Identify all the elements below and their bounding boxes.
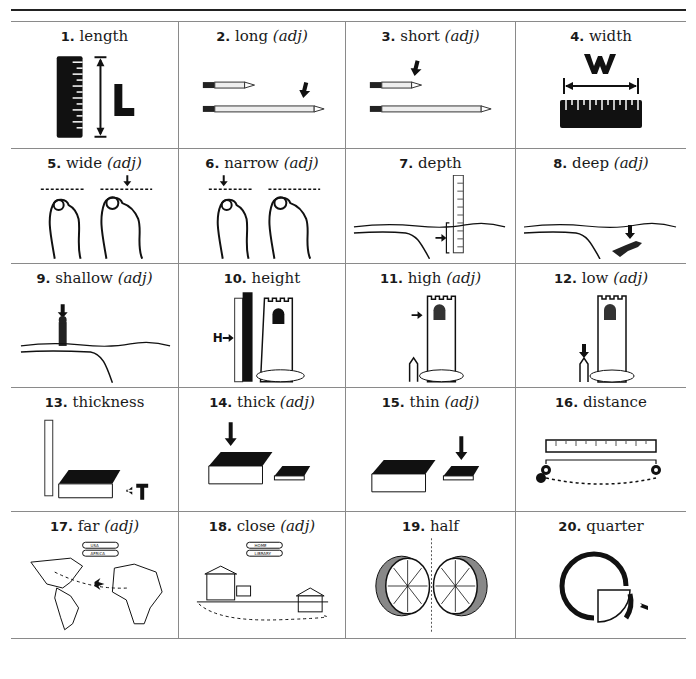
narrow-foot-icon [179, 175, 345, 259]
item-width: 4. width [516, 22, 686, 148]
thin-book-icon [346, 414, 515, 507]
item-label: 7. depth [346, 154, 515, 173]
tower-low-person-icon [516, 290, 686, 383]
item-thin: 15. thin (adj) [346, 388, 516, 511]
circle-quarter-icon [516, 538, 686, 634]
thick-book-icon [179, 414, 345, 507]
item-narrow: 6. narrow (adj) [179, 149, 346, 263]
svg-text:AFRICA: AFRICA [91, 551, 106, 556]
item-depth: 7. depth [346, 149, 516, 263]
item-label: 1. length [11, 27, 178, 46]
item-label: 20. quarter [516, 517, 686, 536]
item-deep: 8. deep (adj) [516, 149, 686, 263]
item-label: 6. narrow (adj) [179, 154, 345, 173]
item-shallow: 9. shallow (adj) [11, 264, 179, 387]
orange-halves-icon [346, 538, 515, 634]
item-label: 9. shallow (adj) [11, 269, 178, 288]
short-pencil-icon [346, 48, 515, 144]
tower-high-window-icon [346, 290, 515, 383]
home-library-icon: HOME LIBRARY [179, 538, 345, 634]
long-pencil-icon [179, 48, 345, 144]
vocabulary-grid: 1. length 2. long (adj) [11, 21, 686, 639]
water-depth-gauge-icon [346, 175, 515, 259]
item-label: 5. wide (adj) [11, 154, 178, 173]
item-wide: 5. wide (adj) [11, 149, 179, 263]
tower-height-ruler-icon: H [179, 290, 345, 383]
wide-foot-icon [11, 175, 178, 259]
item-label: 8. deep (adj) [516, 154, 686, 173]
item-far: 17. far (adj) USA AFRICA [11, 512, 179, 638]
item-thick: 14. thick (adj) [179, 388, 346, 511]
item-label: 13. thickness [11, 393, 178, 412]
book-thickness-ruler-icon [11, 414, 178, 507]
grid-row-2: 5. wide (adj) 6. narrow (adj) [11, 149, 686, 264]
item-half: 19. half [346, 512, 516, 638]
svg-text:USA: USA [91, 543, 99, 548]
svg-text:H: H [213, 331, 223, 345]
item-quarter: 20. quarter [516, 512, 686, 638]
svg-text:HOME: HOME [255, 543, 268, 548]
item-length: 1. length [11, 22, 179, 148]
item-height: 10. height H [179, 264, 346, 387]
grid-row-3: 9. shallow (adj) 10. height H [11, 264, 686, 388]
item-label: 11. high (adj) [346, 269, 515, 288]
grid-row-5: 17. far (adj) USA AFRICA 18. close (adj) [11, 512, 686, 639]
item-short: 3. short (adj) [346, 22, 516, 148]
item-label: 4. width [516, 27, 686, 46]
item-label: 18. close (adj) [179, 517, 345, 536]
map-usa-africa-icon: USA AFRICA [11, 538, 178, 634]
svg-text:LIBRARY: LIBRARY [255, 551, 272, 556]
item-label: 16. distance [516, 393, 686, 412]
item-label: 14. thick (adj) [179, 393, 345, 412]
person-shallow-water-icon [11, 290, 178, 383]
item-label: 17. far (adj) [11, 517, 178, 536]
item-low: 12. low (adj) [516, 264, 686, 387]
item-label: 10. height [179, 269, 345, 288]
item-high: 11. high (adj) [346, 264, 516, 387]
ruler-with-L-icon [11, 48, 178, 144]
item-thickness: 13. thickness [11, 388, 179, 511]
item-label: 3. short (adj) [346, 27, 515, 46]
diver-deep-water-icon [516, 175, 686, 259]
ruler-distance-pins-icon [516, 414, 686, 507]
item-label: 2. long (adj) [179, 27, 345, 46]
item-label: 19. half [346, 517, 515, 536]
top-rule [11, 9, 686, 11]
item-close: 18. close (adj) HOME LIBRARY [179, 512, 346, 638]
grid-row-1: 1. length 2. long (adj) [11, 22, 686, 149]
item-label: 12. low (adj) [516, 269, 686, 288]
grid-row-4: 13. thickness 14. thick (adj) [11, 388, 686, 512]
item-distance: 16. distance [516, 388, 686, 511]
ruler-with-W-icon [516, 48, 686, 144]
item-label: 15. thin (adj) [346, 393, 515, 412]
item-long: 2. long (adj) [179, 22, 346, 148]
